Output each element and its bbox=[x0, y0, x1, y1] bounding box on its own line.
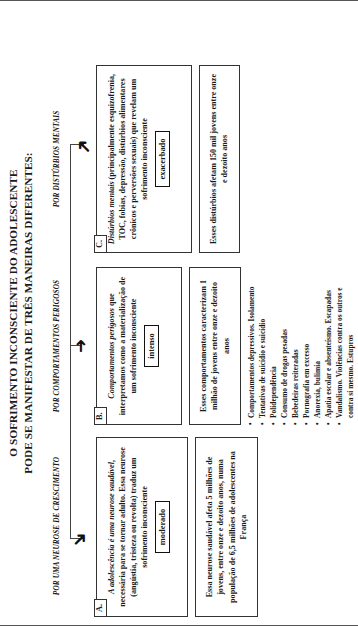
list-item: Bebedeiras reiteradas bbox=[291, 267, 302, 425]
branch-b-bullet-list: Comportamentos depressivos. Isolamento T… bbox=[247, 267, 356, 425]
branch-b-tag: B. bbox=[94, 407, 107, 425]
page-title: O SOFRIMENTO INCONSCIENTE DO ADOLESCENTE… bbox=[6, 1, 36, 625]
branch-a: A. A adolescência é uma neurose saudável… bbox=[96, 437, 258, 617]
branch-b-main-box: Comportamentos perigosos que interpretam… bbox=[96, 267, 182, 425]
column-heading-b: POR COMPORTAMENTOS PERIGOSOS bbox=[52, 263, 61, 429]
diagram-page: O SOFRIMENTO INCONSCIENTE DO ADOLESCENTE… bbox=[0, 0, 358, 626]
page-title-line-1: O SOFRIMENTO INCONSCIENTE DO ADOLESCENTE bbox=[7, 169, 19, 456]
list-item: Pornografia em excesso bbox=[302, 267, 313, 425]
list-item: Polidependência bbox=[269, 267, 280, 425]
diagram-canvas: O SOFRIMENTO INCONSCIENTE DO ADOLESCENTE… bbox=[0, 0, 358, 626]
branch-a-intensity-badge: moderado bbox=[155, 501, 170, 553]
branch-a-detail-box: Essa neurose saudável afeta 5 milhões de… bbox=[195, 437, 258, 617]
list-item: Consumo de drogas pesadas bbox=[280, 267, 291, 425]
branch-b-detail-box: Esses comportamentos caracterizam 1 milh… bbox=[189, 267, 241, 425]
page-title-line-2: PODE SE MANIFESTAR DE TRÊS MANEIRAS DIFE… bbox=[21, 1, 36, 625]
column-heading-a: POR UMA NEUROSE DE CRESCIMENTO bbox=[52, 433, 61, 619]
list-item: Comportamentos depressivos. Isolamento bbox=[247, 267, 258, 425]
branch-c-main-box: Distúrbios mentais (principalmente esqui… bbox=[96, 65, 192, 253]
branch-c: C. Distúrbios mentais (principalmente es… bbox=[96, 65, 240, 253]
branch-b-intensity-badge: intenso bbox=[144, 325, 159, 367]
branch-a-tag: A. bbox=[94, 599, 107, 617]
branch-b-lead-italic: Comportamentos perigosos bbox=[107, 308, 116, 399]
branch-c-intensity-badge: exacerbado bbox=[155, 131, 170, 188]
column-heading-c: POR DISTÚRBIOS MENTAIS bbox=[52, 59, 61, 259]
branch-c-detail-box: Esses distúrbios afetam 150 mil jovens e… bbox=[199, 65, 240, 253]
list-item: Apatia escolar e absenteísmo. Escapadas bbox=[324, 267, 335, 425]
list-item: Vandalismo. Violências contra os outros … bbox=[335, 267, 356, 425]
arrow-up-right-icon: ➜ bbox=[71, 135, 96, 160]
branch-a-main-box: A adolescência é uma neurose saudável, n… bbox=[96, 437, 188, 617]
arrow-down-right-icon: ➜ bbox=[67, 527, 92, 552]
list-item: Anorexia, bulimia bbox=[313, 267, 324, 425]
list-item: Tentativas de suicídio e suicídio bbox=[258, 267, 269, 425]
branch-c-lead-italic: Distúrbios mentais bbox=[107, 181, 116, 244]
branch-a-lead-italic: A adolescência é uma neurose saudável bbox=[107, 462, 116, 594]
arrow-right-icon: ➜ bbox=[72, 339, 89, 353]
branch-b: B. Comportamentos perigosos que interpre… bbox=[96, 267, 357, 425]
branch-c-tag: C. bbox=[94, 235, 107, 253]
